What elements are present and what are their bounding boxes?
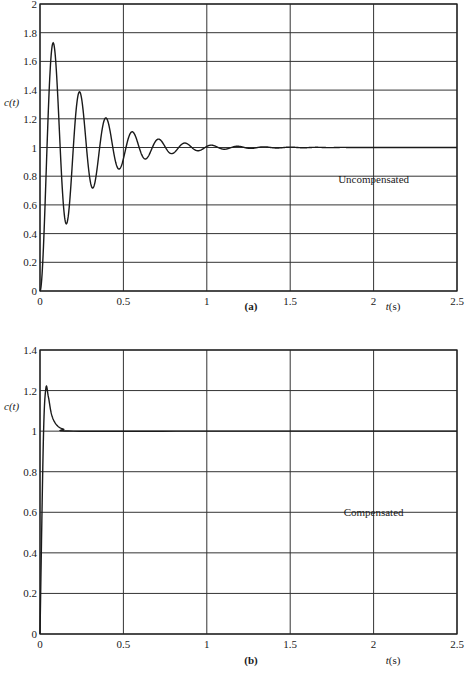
y-tick-label: 0.4 [23, 228, 37, 240]
x-tick-label: 2 [371, 638, 377, 650]
x-tick-label: 1 [204, 638, 210, 650]
y-tick-label: 2 [32, 0, 38, 10]
y-tick-label: 1.2 [23, 113, 37, 125]
y-tick-label: 1.2 [23, 385, 37, 397]
x-axis-label: t(s) [386, 654, 401, 667]
y-tick-label: 0.6 [23, 506, 37, 518]
response-curve [40, 43, 457, 291]
x-tick-label: 2 [371, 295, 377, 307]
y-tick-label: 1 [32, 425, 38, 437]
y-tick-label: 0.6 [23, 199, 37, 211]
x-tick-label: 1.5 [283, 638, 297, 650]
series-annotation: Uncompensated [338, 173, 409, 185]
series-annotation: Compensated [344, 506, 404, 518]
grid-lines [40, 350, 457, 634]
x-tick-label: 1.5 [283, 295, 297, 307]
y-tick-label: 0.8 [23, 466, 37, 478]
plot-frame [40, 350, 457, 634]
x-tick-label: 0.5 [117, 295, 131, 307]
y-tick-label: 0.2 [23, 587, 37, 599]
y-tick-label: 0.4 [23, 547, 37, 559]
chart-uncompensated: 00.511.522.500.20.40.60.811.21.41.61.82c… [0, 0, 469, 318]
y-tick-label: 1 [32, 142, 38, 154]
y-tick-label: 1.4 [23, 84, 37, 96]
panel-caption: (a) [245, 300, 258, 313]
y-tick-label: 0 [32, 628, 38, 640]
chart-compensated: 00.511.522.500.20.40.60.811.21.4c(t)t(s)… [0, 338, 469, 678]
x-tick-label: 2.5 [450, 638, 464, 650]
y-axis-label: c(t) [4, 400, 20, 413]
y-axis-label: c(t) [4, 96, 20, 109]
x-tick-label: 2.5 [450, 295, 464, 307]
x-tick-label: 0 [37, 638, 43, 650]
chart-uncompensated-plot: 00.511.522.500.20.40.60.811.21.41.61.82c… [0, 0, 469, 318]
x-tick-label: 0 [37, 295, 43, 307]
y-tick-label: 0.8 [23, 170, 37, 182]
y-tick-label: 0 [32, 285, 38, 297]
y-tick-label: 0.2 [23, 256, 37, 268]
x-tick-label: 0.5 [117, 638, 131, 650]
chart-compensated-plot: 00.511.522.500.20.40.60.811.21.4c(t)t(s)… [0, 338, 469, 678]
y-tick-label: 1.8 [23, 27, 37, 39]
y-tick-label: 1.6 [23, 55, 37, 67]
x-axis-label: t(s) [386, 300, 401, 313]
panel-caption: (b) [244, 654, 258, 667]
y-tick-label: 1.4 [23, 344, 37, 356]
x-tick-label: 1 [204, 295, 210, 307]
